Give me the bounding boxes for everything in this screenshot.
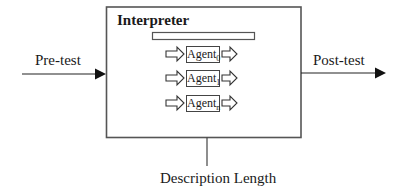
agent-n-box: Agentn <box>186 95 220 112</box>
agent-0-box: Agent0 <box>186 46 220 63</box>
agent-0-output-arrow-icon <box>222 47 237 61</box>
pre-test-label: Pre-test <box>35 52 81 69</box>
post-test-label: Post-test <box>313 52 365 69</box>
agent-n-subscript: n <box>216 103 220 112</box>
post-test-arrow <box>301 68 386 79</box>
agent-0-input-arrow-icon <box>166 47 184 61</box>
agent-1-input-arrow-icon <box>166 71 184 85</box>
agent-n-output-arrow-icon <box>222 96 237 110</box>
agent-0-subscript: 0 <box>216 54 220 63</box>
agent-n-input-arrow-icon <box>166 96 184 110</box>
interpreter-bar <box>153 33 255 40</box>
agent-1-label: Agent <box>187 71 216 85</box>
agent-1-box: Agent1 <box>186 70 220 87</box>
agent-0-label: Agent <box>187 47 216 61</box>
description-length-label: Description Length <box>160 170 276 187</box>
agent-1-subscript: 1 <box>216 78 220 87</box>
interpreter-title: Interpreter <box>117 12 189 29</box>
agent-1-output-arrow-icon <box>222 71 237 85</box>
pre-test-arrow <box>22 69 106 80</box>
agent-n-label: Agent <box>187 96 216 110</box>
